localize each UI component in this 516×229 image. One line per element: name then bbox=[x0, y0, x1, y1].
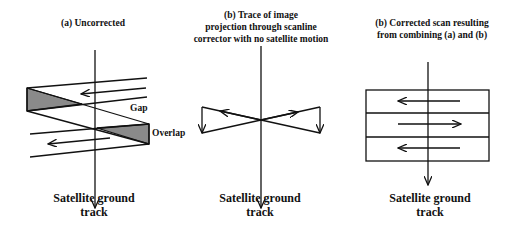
overlap-label: Overlap bbox=[152, 128, 185, 138]
panel-b-title-line1: (b) Trace of image bbox=[224, 10, 298, 21]
panel-a-caption-line2: track bbox=[80, 205, 108, 219]
trace-line bbox=[261, 120, 320, 133]
panel-c-title-line1: (b) Corrected scan resulting bbox=[375, 18, 489, 29]
panel-c-caption-line1: Satellite ground bbox=[389, 191, 471, 205]
trace-arrow-right bbox=[261, 112, 298, 120]
trace-arrow-left bbox=[220, 111, 261, 120]
panel-b-title-line3: corrector with no satellite motion bbox=[194, 34, 329, 44]
panel-b-caption-line1: Satellite ground bbox=[219, 191, 301, 205]
panel-a-caption-line1: Satellite ground bbox=[53, 191, 135, 205]
scan-direction-arrow-upper bbox=[81, 88, 146, 94]
overlap-shaded-region bbox=[97, 124, 149, 144]
panel-b-caption-line2: track bbox=[246, 205, 274, 219]
diagram-canvas: (a) Uncorrected Gap Overlap Satellite gr… bbox=[0, 0, 516, 229]
panel-c-title-line2: from combining (a) and (b) bbox=[377, 30, 487, 41]
panel-a-title: (a) Uncorrected bbox=[61, 18, 126, 29]
panel-b-title-line2: projection through scanline bbox=[205, 22, 317, 32]
scan-direction-arrow-lower bbox=[48, 138, 110, 144]
scan-line-top bbox=[27, 78, 147, 88]
panel-corrected: (b) Corrected scan resulting from combin… bbox=[366, 18, 489, 219]
panel-trace: (b) Trace of image projection through sc… bbox=[194, 10, 329, 219]
panel-c-caption-line2: track bbox=[416, 205, 444, 219]
gap-label: Gap bbox=[130, 103, 147, 113]
scan-line-bottom bbox=[30, 144, 149, 157]
panel-uncorrected: (a) Uncorrected Gap Overlap Satellite gr… bbox=[27, 18, 185, 219]
